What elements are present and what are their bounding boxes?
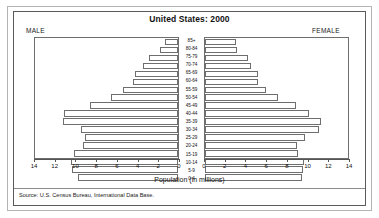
female-bar xyxy=(205,71,258,78)
bar-row xyxy=(205,110,348,118)
age-group-label: 65-69 xyxy=(179,70,204,78)
male-bar xyxy=(64,110,178,117)
axis-tick-label: 0 xyxy=(202,163,205,169)
age-group-label: 50-54 xyxy=(179,94,204,102)
page-title: United States: 2000 xyxy=(0,14,379,24)
bar-row xyxy=(205,118,348,126)
axis-tick-label: 6 xyxy=(115,163,118,169)
female-bar xyxy=(205,118,321,125)
age-group-label: 45-49 xyxy=(179,102,204,110)
axis-line xyxy=(204,159,349,160)
age-group-label: 20-24 xyxy=(179,143,204,151)
axis-tick-label: 2 xyxy=(157,163,160,169)
x-axis-title: Population (in millions) xyxy=(0,176,379,183)
age-group-label: 80-84 xyxy=(179,45,204,53)
female-bar xyxy=(205,134,305,141)
bar-row xyxy=(35,126,178,134)
male-bar xyxy=(143,63,178,70)
age-group-label: 15-19 xyxy=(179,151,204,159)
bar-row xyxy=(35,38,178,46)
age-group-label: 30-34 xyxy=(179,126,204,134)
bar-row xyxy=(35,86,178,94)
male-bar xyxy=(90,102,178,109)
male-bar xyxy=(123,87,178,94)
age-group-label: 10-14 xyxy=(179,159,204,167)
axis-tick xyxy=(349,159,350,162)
axis-tick-label: 4 xyxy=(244,163,247,169)
female-bar xyxy=(205,55,248,62)
male-bar-group xyxy=(35,38,178,158)
axis-tick-label: 2 xyxy=(223,163,226,169)
bar-row xyxy=(35,142,178,150)
bar-row xyxy=(205,62,348,70)
female-bar xyxy=(205,126,319,133)
bar-row xyxy=(205,54,348,62)
bar-row xyxy=(35,46,178,54)
bar-row xyxy=(205,142,348,150)
female-bar xyxy=(205,63,251,70)
bar-row xyxy=(205,134,348,142)
male-bar xyxy=(83,142,178,149)
bar-row xyxy=(35,134,178,142)
male-bar xyxy=(165,39,178,46)
age-group-label: 60-64 xyxy=(179,78,204,86)
bar-row xyxy=(35,118,178,126)
bar-row xyxy=(35,150,178,158)
bar-row xyxy=(205,86,348,94)
axis-tick-label: 8 xyxy=(94,163,97,169)
male-bar xyxy=(74,150,178,157)
male-bar xyxy=(160,47,178,54)
male-bar xyxy=(111,94,178,101)
bar-row xyxy=(35,78,178,86)
female-bar xyxy=(205,110,309,117)
bar-row xyxy=(205,126,348,134)
bar-row xyxy=(205,70,348,78)
female-bar xyxy=(205,79,258,86)
axis-tick-label: 10 xyxy=(304,163,311,169)
male-x-axis: 14121086420 xyxy=(34,159,179,173)
age-group-label: 25-29 xyxy=(179,135,204,143)
male-side-label: MALE xyxy=(26,27,45,34)
age-group-label: 5-9 xyxy=(179,167,204,175)
male-bar xyxy=(81,126,178,133)
bar-row xyxy=(205,38,348,46)
axis-tick-label: 4 xyxy=(136,163,139,169)
bar-row xyxy=(205,150,348,158)
female-x-axis: 02468101214 xyxy=(204,159,349,173)
female-bar xyxy=(205,87,266,94)
female-bar xyxy=(205,102,296,109)
axis-line xyxy=(34,159,179,160)
age-group-label: 35-39 xyxy=(179,118,204,126)
female-bar xyxy=(205,47,237,54)
bar-row xyxy=(35,62,178,70)
bar-row xyxy=(35,94,178,102)
bar-row xyxy=(35,102,178,110)
bar-row xyxy=(35,54,178,62)
female-bar xyxy=(205,39,236,46)
male-bar xyxy=(135,71,178,78)
age-group-label: 75-79 xyxy=(179,53,204,61)
female-bar xyxy=(205,150,298,157)
age-group-label: 40-44 xyxy=(179,110,204,118)
age-group-label: 55-59 xyxy=(179,86,204,94)
age-group-label: 70-74 xyxy=(179,61,204,69)
age-group-axis: 85+80-8475-7970-7465-6960-6455-5950-5445… xyxy=(179,37,204,159)
male-bar xyxy=(133,79,178,86)
female-bar xyxy=(205,142,297,149)
axis-tick-label: 0 xyxy=(177,163,180,169)
age-group-label: 85+ xyxy=(179,37,204,45)
axis-tick-label: 14 xyxy=(31,163,38,169)
axis-tick xyxy=(179,159,180,162)
male-bar xyxy=(85,134,178,141)
bar-row xyxy=(35,70,178,78)
bar-row xyxy=(205,102,348,110)
bar-row xyxy=(205,78,348,86)
axis-tick-label: 6 xyxy=(264,163,267,169)
axis-tick-label: 10 xyxy=(72,163,79,169)
bar-row xyxy=(35,110,178,118)
axis-tick-label: 8 xyxy=(285,163,288,169)
male-bar xyxy=(63,118,178,125)
source-note: Source: U.S. Census Bureau, Internationa… xyxy=(19,192,154,198)
axis-tick-label: 12 xyxy=(325,163,332,169)
female-bar xyxy=(205,94,278,101)
